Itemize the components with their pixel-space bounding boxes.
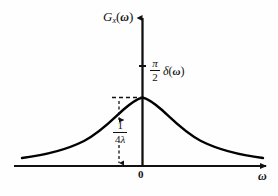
plot-canvas	[0, 0, 278, 196]
impulse-delta-term: δ(ω)	[163, 65, 185, 77]
peak-height-annotation: 1 4λ	[113, 120, 127, 145]
impulse-omega: ω	[173, 65, 181, 77]
impulse-numerator: π	[150, 58, 160, 70]
y-axis-label-paren-close: )	[129, 9, 133, 24]
origin-tick-label: 0	[138, 169, 144, 180]
x-axis-label: ω	[258, 170, 267, 182]
lambda-symbol: λ	[121, 133, 126, 145]
peak-height-numerator: 1	[115, 120, 125, 132]
figure-container: Gx(ω) ω 0 π 2 δ(ω) 1 4λ	[0, 0, 278, 196]
impulse-denominator: 2	[150, 71, 160, 83]
y-axis-label: Gx(ω)	[103, 10, 133, 25]
peak-height-denominator: 4λ	[113, 133, 127, 145]
peak-height-fraction: 1 4λ	[113, 120, 127, 145]
y-axis-label-omega: ω	[120, 10, 129, 24]
impulse-paren-close: )	[181, 64, 185, 78]
y-axis-label-base: G	[103, 9, 112, 24]
impulse-annotation: π 2 δ(ω)	[150, 58, 185, 83]
impulse-fraction: π 2	[150, 58, 160, 83]
